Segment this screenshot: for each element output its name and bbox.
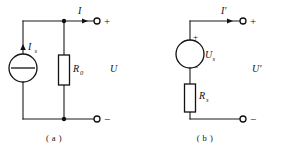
- circuit-b-port-voltage-label: U′: [252, 63, 262, 74]
- resistor-r0-label-subscript: 0: [80, 69, 84, 76]
- resistor-rs-label-subscript: s: [206, 96, 209, 103]
- resistor-rs-label: R: [198, 90, 205, 101]
- circuit-b-minus-sign: −: [250, 113, 256, 125]
- circuit-b-terminal-positive: [240, 18, 246, 24]
- current-source-label-subscript: s: [35, 47, 38, 54]
- voltage-source-symbol: [176, 40, 204, 68]
- resistor-r0-label: R: [72, 63, 79, 74]
- circuit-b-group: + − U s R s I′ U′ + − ( b ): [176, 5, 262, 143]
- resistor-r0-symbol: [59, 55, 70, 85]
- voltage-source-minus-sign: −: [193, 62, 198, 72]
- circuit-a-minus-sign: −: [104, 113, 110, 125]
- circuit-a-port-voltage-label: U: [110, 63, 118, 74]
- circuit-b-plus-sign: +: [250, 15, 256, 27]
- circuit-b-caption: ( b ): [197, 133, 214, 143]
- circuit-b-port-current-label: I′: [220, 5, 227, 16]
- circuit-diagram-figure: I s R 0 I U + − ( a ): [0, 0, 285, 151]
- circuit-a-terminal-positive: [94, 18, 100, 24]
- circuit-a-bottom-node-dot: [62, 117, 66, 121]
- circuit-svg-canvas: I s R 0 I U + − ( a ): [0, 0, 285, 151]
- circuit-a-port-current-arrow-icon: [82, 18, 88, 23]
- circuit-a-plus-sign: +: [104, 15, 110, 27]
- circuit-a-top-node-dot: [62, 19, 66, 23]
- circuit-b-terminal-negative: [240, 116, 246, 122]
- circuit-a-group: I s R 0 I U + − ( a ): [9, 5, 118, 143]
- voltage-source-label-subscript: s: [213, 55, 216, 62]
- current-source-label: I: [27, 41, 32, 52]
- circuit-a-caption: ( a ): [46, 133, 62, 143]
- resistor-rs-symbol: [185, 84, 196, 112]
- voltage-source-plus-sign: +: [193, 32, 198, 42]
- circuit-a-port-current-label: I: [77, 5, 82, 16]
- circuit-b-port-current-arrow-icon: [227, 18, 233, 23]
- current-source-arrow-icon: [20, 44, 26, 50]
- circuit-a-terminal-negative: [94, 116, 100, 122]
